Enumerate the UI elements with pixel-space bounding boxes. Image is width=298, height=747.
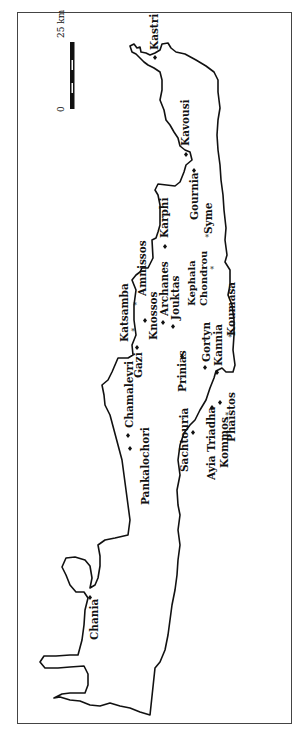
marker-karphi [163, 244, 167, 249]
label-jouktas: Jouktas [170, 276, 181, 320]
marker-amnissos: * [133, 301, 137, 310]
label-sachtouria: Sachtouria [179, 408, 190, 472]
label-kephala-chondrou: Kephala Chondrou [186, 246, 210, 306]
label-kannia: Kannia [213, 324, 224, 366]
scale-end-label: 25 km [57, 10, 66, 38]
coastline [40, 43, 235, 715]
label-amnissos: Amnissos [137, 240, 148, 296]
label-ayia-triadha: Ayia Triadha [206, 407, 217, 480]
marker-gazi [135, 345, 139, 350]
marker-archanes [161, 320, 165, 325]
crete-coastline-map: * * * * * * [0, 0, 298, 747]
marker-kastri [153, 55, 157, 60]
marker-kephala-chondrou: * [210, 265, 214, 274]
label-knossos: Knossos [148, 291, 159, 340]
label-prinias: Prinias [177, 350, 188, 392]
label-kommos: Kommos [219, 417, 230, 468]
marker-jouktas [171, 324, 175, 329]
label-chania: Chania [89, 599, 100, 640]
scale-start-label: 0 [57, 106, 66, 112]
scale-bar [70, 42, 75, 109]
label-katsamba: Katsamba [119, 283, 130, 342]
marker-pankalochori [128, 446, 132, 451]
marker-phaistos [218, 400, 222, 405]
label-gournia: Gournia [189, 172, 200, 220]
label-kastri: Kastri [149, 14, 160, 50]
marker-kavousi [184, 152, 188, 157]
label-chamalevri: Chamalevri [124, 361, 135, 428]
label-kavousi: Kavousi [180, 99, 191, 146]
marker-katsamba: * [131, 327, 135, 336]
label-archanes: Archanes [159, 261, 170, 316]
marker-gortyn [203, 365, 207, 370]
marker-sachtouria [191, 430, 195, 435]
marker-syme: * [205, 233, 209, 242]
label-gortyn: Gortyn [201, 322, 212, 362]
label-karphi: Karphi [159, 198, 170, 238]
marker-chamalevri [126, 433, 130, 438]
label-syme: Syme [203, 203, 214, 234]
label-pankalochori: Pankalochori [140, 427, 151, 505]
label-koumasa: Koumasa [226, 282, 237, 336]
